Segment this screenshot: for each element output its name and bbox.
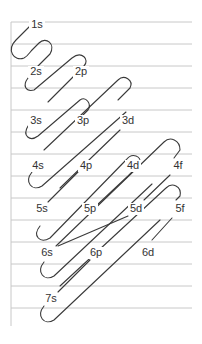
orbital-label-4d: 4d (127, 159, 139, 171)
orbital-label-4p: 4p (80, 159, 92, 171)
orbital-label-2p: 2p (75, 65, 87, 77)
orbital-label-5f: 5f (175, 202, 185, 214)
orbital-label-3p: 3p (77, 114, 89, 126)
path-5f-6d (60, 185, 180, 286)
orbital-label-4f: 4f (173, 159, 183, 171)
path-2s-3s (25, 55, 86, 102)
orbital-label-1s: 1s (31, 18, 43, 30)
orbital-label-6s: 6s (41, 246, 53, 258)
orbital-label-3s: 3s (30, 114, 42, 126)
orbital-label-4s: 4s (32, 159, 44, 171)
orbital-label-3d: 3d (122, 114, 134, 126)
path-6s-7s (41, 184, 152, 292)
aufbau-diagram: 1s2s2p3s3p3d4s4p4d4f5s5p5d5f6s6p6d7s (0, 0, 202, 344)
orbital-labels: 1s2s2p3s3p3d4s4p4d4f5s5p5d5f6s6p6d7s (28, 18, 188, 305)
orbital-label-7s: 7s (45, 292, 57, 304)
orbital-label-5p: 5p (84, 202, 96, 214)
orbital-label-2s: 2s (30, 65, 42, 77)
orbital-label-6p: 6p (90, 246, 102, 258)
orbital-label-5s: 5s (36, 202, 48, 214)
orbital-label-5d: 5d (130, 202, 142, 214)
orbital-label-6d: 6d (142, 246, 154, 258)
